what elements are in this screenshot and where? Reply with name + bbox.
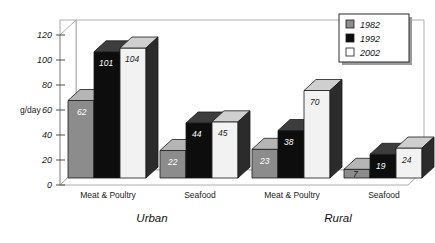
bar-value-label: 101: [99, 58, 113, 68]
x-axis-labels: Meat & Poultry Seafood Meat & Poultry Se…: [80, 190, 400, 200]
y-tick-label-0: 0: [47, 180, 52, 190]
legend-swatch-black-icon: [346, 34, 354, 42]
bar-value-label: 23: [259, 156, 270, 166]
legend[interactable]: 1982 1992 2002: [339, 14, 412, 65]
bar-value-label: 45: [218, 128, 228, 138]
legend-swatch-gray-icon: [346, 20, 354, 28]
y-axis-title: g/day: [20, 105, 42, 115]
group-labels: Urban Rural: [136, 212, 352, 224]
group-label-urban: Urban: [136, 212, 167, 224]
y-tick-label-100: 100: [37, 55, 52, 65]
legend-label-2002: 2002: [359, 48, 380, 58]
y-tick-label-40: 40: [42, 130, 52, 140]
bar-front-face: [94, 52, 120, 178]
bar-value-label: 104: [125, 54, 139, 64]
bar-value-label: 19: [376, 161, 386, 171]
bar-side-face: [146, 37, 158, 178]
chart-container: 120 100 80 60 40 20 0 g/day: [0, 0, 435, 243]
y-tick-label-20: 20: [41, 155, 52, 165]
bar-front-face: [120, 48, 146, 178]
bar-value-label: 38: [284, 137, 294, 147]
bar-value-label: 70: [310, 97, 320, 107]
bar-value-label: 62: [77, 107, 87, 117]
bar-urban-meat-2002[interactable]: 104: [120, 37, 158, 178]
bar-rural-meat-2002[interactable]: 70: [304, 80, 342, 179]
legend-label-1982: 1982: [360, 20, 380, 30]
bar-value-label: 44: [192, 129, 202, 139]
legend-label-1992: 1992: [360, 34, 380, 44]
grouped-3d-bar-chart: 120 100 80 60 40 20 0 g/day: [0, 0, 435, 243]
bar-side-face: [330, 80, 342, 179]
y-tick-label-60: 60: [42, 105, 52, 115]
bar-side-face: [238, 111, 250, 178]
category-label-2: Meat & Poultry: [264, 190, 320, 200]
category-label-3: Seafood: [368, 190, 400, 200]
bar-urban-seafood-2002[interactable]: 45: [212, 111, 250, 178]
y-tick-label-80: 80: [42, 80, 52, 90]
bar-rural-seafood-2002[interactable]: 24: [396, 137, 434, 178]
category-label-1: Seafood: [184, 190, 216, 200]
y-tick-label-120: 120: [37, 30, 52, 40]
category-label-0: Meat & Poultry: [80, 190, 136, 200]
legend-swatch-white-icon: [346, 48, 354, 56]
bar-value-label: 24: [401, 155, 412, 165]
group-label-rural: Rural: [324, 212, 352, 224]
bar-value-label: 22: [167, 157, 178, 167]
bar-value-label: 7: [353, 169, 358, 179]
